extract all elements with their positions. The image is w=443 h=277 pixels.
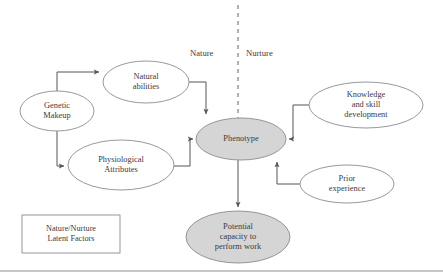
connector-prior-experience-to-phenotype	[277, 162, 300, 184]
connector-knowledge-and-skill-development-to-phenotype	[289, 105, 309, 139]
side-label-nurture: Nurture	[246, 48, 273, 58]
connector-genetic-makeup-to-physiological-attributes	[57, 131, 64, 166]
connector-physiological-attributes-to-phenotype	[174, 139, 193, 166]
legend-label-nature-nurture-latent-factors: Nature/Nurture Latent Factors	[22, 215, 120, 253]
connector-genetic-makeup-to-natural-abilities	[57, 72, 99, 91]
node-genetic-makeup[interactable]	[20, 91, 94, 131]
side-label-nature: Nature	[190, 48, 213, 58]
node-natural-abilities[interactable]	[103, 61, 189, 103]
connector-natural-abilities-to-phenotype	[189, 82, 206, 114]
node-potential-capacity-to-perform-work[interactable]	[186, 211, 290, 263]
node-prior-experience[interactable]	[300, 165, 394, 203]
node-knowledge-and-skill-development[interactable]	[309, 82, 423, 128]
node-physiological-attributes[interactable]	[68, 140, 174, 190]
node-phenotype[interactable]	[196, 118, 286, 160]
diagram-canvas: Genetic MakeupNatural abilitiesPhysiolog…	[0, 0, 443, 277]
